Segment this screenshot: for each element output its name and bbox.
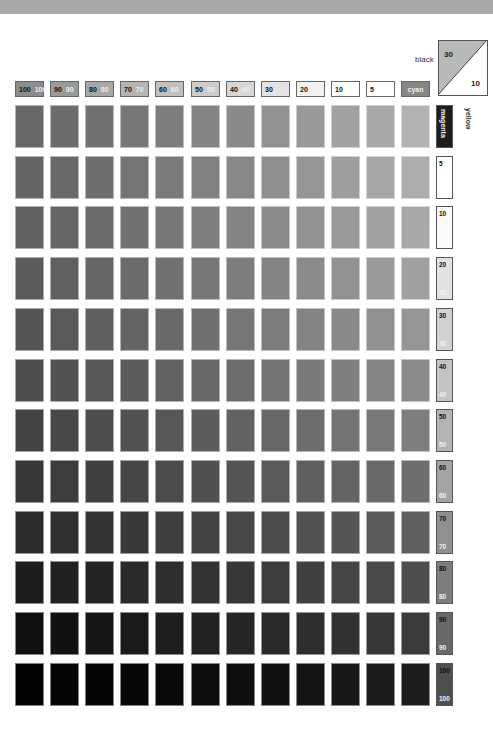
header-label: 5 <box>370 86 374 93</box>
swatch-m70-c100 <box>15 511 44 554</box>
swatch-m0-c80 <box>85 105 114 148</box>
row-label: 40 <box>439 363 446 370</box>
magenta-label-100: 100100 <box>436 663 453 706</box>
swatch-m100-c60 <box>155 663 184 706</box>
swatch-m5-c50 <box>191 156 220 199</box>
swatch-m20-c60 <box>155 257 184 300</box>
swatch-m70-c50 <box>191 511 220 554</box>
cyan-header-70: 7070 <box>120 81 149 97</box>
row-label: 20 <box>439 261 446 268</box>
swatch-m80-c80 <box>85 561 114 604</box>
swatch-m10-c80 <box>85 206 114 249</box>
row-label: 90 <box>439 616 446 623</box>
yellow-value: 10 <box>471 79 480 88</box>
row-label: 80 <box>439 565 446 572</box>
swatch-m70-c60 <box>155 511 184 554</box>
swatch-m60-c20 <box>296 460 325 503</box>
swatch-m80-c20 <box>296 561 325 604</box>
swatch-m50-c60 <box>155 409 184 452</box>
swatch-m5-c80 <box>85 156 114 199</box>
swatch-m5-c70 <box>120 156 149 199</box>
header-label-dup: 60 <box>171 86 179 93</box>
header-label: 40 <box>230 86 238 93</box>
swatch-m20-c80 <box>85 257 114 300</box>
swatch-m100-c100 <box>15 663 44 706</box>
header-label-dup: 50 <box>207 86 215 93</box>
swatch-m80-c90 <box>50 561 79 604</box>
swatch-m90-c10 <box>331 612 360 655</box>
magenta-label-60: 6060 <box>436 460 453 503</box>
swatch-m20-c50 <box>191 257 220 300</box>
magenta-label-90: 9090 <box>436 612 453 655</box>
swatch-m5-c100 <box>15 156 44 199</box>
header-label: 90 <box>54 86 62 93</box>
swatch-m40-c60 <box>155 359 184 402</box>
row-label-dup: 90 <box>439 644 446 651</box>
swatch-m40-c20 <box>296 359 325 402</box>
row-label-dup: 70 <box>439 543 446 550</box>
swatch-m60-c5 <box>366 460 395 503</box>
swatch-m50-c100 <box>15 409 44 452</box>
swatch-m40-c80 <box>85 359 114 402</box>
swatch-m40-c90 <box>50 359 79 402</box>
swatch-m90-c60 <box>155 612 184 655</box>
swatch-m50-c70 <box>120 409 149 452</box>
swatch-m90-c0 <box>401 612 430 655</box>
swatch-m80-c60 <box>155 561 184 604</box>
swatch-m0-c60 <box>155 105 184 148</box>
swatch-m10-c20 <box>296 206 325 249</box>
swatch-m50-c90 <box>50 409 79 452</box>
swatch-m60-c60 <box>155 460 184 503</box>
swatch-m80-c70 <box>120 561 149 604</box>
black-value: 30 <box>444 50 453 59</box>
row-label: 5 <box>439 160 443 167</box>
swatch-m60-c50 <box>191 460 220 503</box>
swatch-m5-c30 <box>261 156 290 199</box>
swatch-m20-c0 <box>401 257 430 300</box>
swatch-m80-c0 <box>401 561 430 604</box>
swatch-m10-c70 <box>120 206 149 249</box>
row-label: 70 <box>439 515 446 522</box>
swatch-m40-c50 <box>191 359 220 402</box>
swatch-m70-c70 <box>120 511 149 554</box>
yellow-label: yellow <box>465 108 472 129</box>
row-label: 100 <box>439 667 450 674</box>
magenta-label-20: 2020 <box>436 257 453 300</box>
swatch-m50-c50 <box>191 409 220 452</box>
swatch-m30-c90 <box>50 308 79 351</box>
header-label-dup: 90 <box>66 86 74 93</box>
swatch-m70-c5 <box>366 511 395 554</box>
header-label: 10 <box>335 86 343 93</box>
swatch-m0-c50 <box>191 105 220 148</box>
top-bar <box>0 0 493 14</box>
swatch-m90-c30 <box>261 612 290 655</box>
swatch-m70-c20 <box>296 511 325 554</box>
header-label: 20 <box>300 86 308 93</box>
swatch-m10-c50 <box>191 206 220 249</box>
magenta-label-5: 5 <box>436 156 453 199</box>
swatch-m5-c10 <box>331 156 360 199</box>
swatch-m40-c30 <box>261 359 290 402</box>
swatch-m0-c90 <box>50 105 79 148</box>
black-yellow-legend: 30 10 <box>438 40 488 96</box>
swatch-m10-c30 <box>261 206 290 249</box>
row-label: magenta <box>440 109 447 138</box>
swatch-m0-c10 <box>331 105 360 148</box>
row-label-dup: 20 <box>439 289 446 296</box>
swatch-m60-c70 <box>120 460 149 503</box>
swatch-m20-c30 <box>261 257 290 300</box>
cyan-header-10: 10 <box>331 81 360 97</box>
cyan-header-cyan: cyan <box>401 81 430 97</box>
swatch-m90-c100 <box>15 612 44 655</box>
swatch-m90-c20 <box>296 612 325 655</box>
swatch-m70-c10 <box>331 511 360 554</box>
swatch-m0-c20 <box>296 105 325 148</box>
swatch-m30-c40 <box>226 308 255 351</box>
swatch-m60-c40 <box>226 460 255 503</box>
swatch-m50-c20 <box>296 409 325 452</box>
row-label: 30 <box>439 312 446 319</box>
header-label-dup: 70 <box>136 86 144 93</box>
cyan-header-80: 8080 <box>85 81 114 97</box>
swatch-m50-c0 <box>401 409 430 452</box>
swatch-m100-c40 <box>226 663 255 706</box>
